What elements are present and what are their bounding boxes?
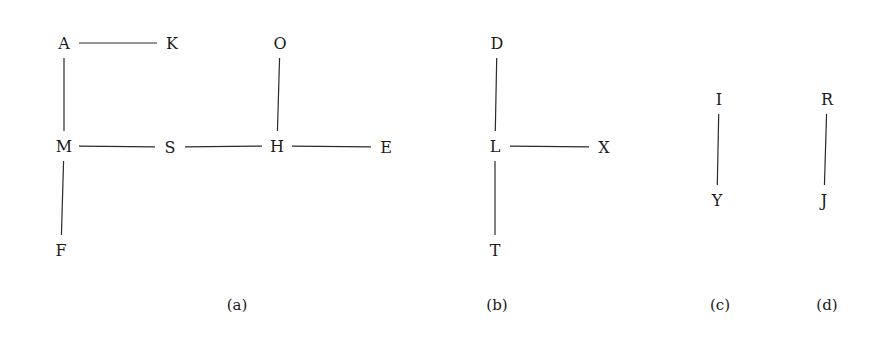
node-x: X xyxy=(598,138,610,157)
captions-layer: (a)(b)(c)(d) xyxy=(227,296,838,314)
caption-b: (b) xyxy=(486,296,507,314)
edge-h-o xyxy=(277,58,279,131)
edge-l-x xyxy=(510,146,589,147)
node-a: A xyxy=(57,34,70,53)
node-h: H xyxy=(270,137,284,156)
node-l: L xyxy=(490,137,501,156)
edge-d-l xyxy=(495,58,496,131)
edge-r-j xyxy=(824,114,826,185)
node-m: M xyxy=(56,137,72,156)
nodes-layer: AKOMSHEFDLXTIYRJ xyxy=(55,34,834,260)
node-y: Y xyxy=(711,191,723,210)
edge-h-e xyxy=(292,146,371,147)
caption-d: (d) xyxy=(816,296,837,314)
caption-c: (c) xyxy=(710,296,730,314)
node-i: I xyxy=(716,90,722,109)
node-f: F xyxy=(55,241,66,260)
node-e: E xyxy=(380,138,392,157)
node-r: R xyxy=(821,90,834,109)
caption-a: (a) xyxy=(227,296,248,314)
graph-diagram: AKOMSHEFDLXTIYRJ (a)(b)(c)(d) xyxy=(0,0,882,339)
node-t: T xyxy=(490,241,501,260)
edge-m-f xyxy=(61,161,63,235)
edge-i-y xyxy=(717,114,718,185)
node-d: D xyxy=(491,34,504,53)
edge-m-s xyxy=(79,146,155,147)
node-k: K xyxy=(166,34,179,53)
node-o: O xyxy=(273,34,286,53)
node-j: J xyxy=(819,191,827,210)
node-s: S xyxy=(165,138,176,157)
edge-s-h xyxy=(185,146,262,147)
